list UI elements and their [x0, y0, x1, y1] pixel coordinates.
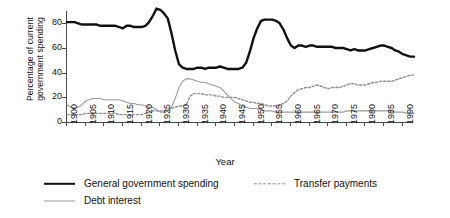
y-tick-label: 80: [40, 18, 62, 27]
x-tick-mark: [402, 122, 403, 126]
x-axis-ticks: 1900190519101915192019251930193519401945…: [0, 124, 450, 158]
x-axis-title: Year: [0, 156, 450, 167]
y-tick-label: 40: [40, 68, 62, 77]
legend-swatch-solid-thin-icon: [44, 196, 75, 206]
y-tick-label: 60: [40, 43, 62, 52]
legend-item-general-government-spending: General government spending: [44, 178, 219, 189]
x-tick-mark: [346, 122, 347, 126]
x-tick-label: 1990: [406, 90, 436, 124]
y-tick-label: 20: [40, 92, 62, 101]
x-tick-mark: [66, 122, 67, 126]
chart-legend: General government spending Transfer pay…: [44, 178, 444, 212]
y-tick-mark: [62, 97, 66, 98]
y-tick-mark: [62, 48, 66, 49]
legend-item-transfer-payments: Transfer payments: [254, 178, 377, 189]
x-tick-mark: [271, 122, 272, 126]
legend-label: Debt interest: [84, 195, 141, 206]
x-tick-mark: [327, 122, 328, 126]
legend-label: General government spending: [84, 178, 219, 189]
y-axis-ticks: 020406080: [38, 0, 62, 133]
x-tick-mark: [197, 122, 198, 126]
x-tick-mark: [364, 122, 365, 126]
y-tick-mark: [62, 73, 66, 74]
y-axis-title-line1: Percentage of current: [25, 17, 36, 101]
x-tick-mark: [309, 122, 310, 126]
series-line: [67, 9, 414, 69]
x-tick-mark: [215, 122, 216, 126]
legend-swatch-dashed-icon: [254, 179, 285, 189]
x-tick-mark: [234, 122, 235, 126]
legend-swatch-solid-thick-icon: [44, 179, 75, 189]
x-tick-mark: [85, 122, 86, 126]
x-tick-mark: [290, 122, 291, 126]
x-tick-mark: [103, 122, 104, 126]
x-tick-mark: [159, 122, 160, 126]
chart-figure: Percentage of current government spendin…: [0, 0, 450, 218]
y-tick-mark: [62, 23, 66, 24]
x-tick-mark: [178, 122, 179, 126]
x-tick-mark: [141, 122, 142, 126]
x-tick-mark: [122, 122, 123, 126]
legend-item-debt-interest: Debt interest: [44, 195, 141, 206]
legend-label: Transfer payments: [294, 178, 377, 189]
x-tick-mark: [383, 122, 384, 126]
x-tick-mark: [253, 122, 254, 126]
